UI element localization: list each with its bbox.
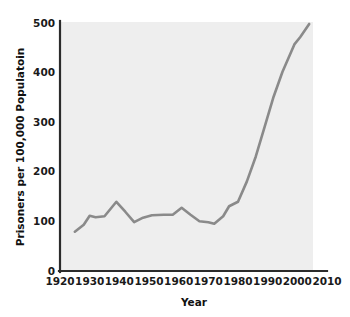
x-tick-label: 2000: [283, 275, 312, 287]
x-tick-label: 1960: [164, 275, 193, 287]
x-tick-label: 1980: [223, 275, 252, 287]
y-axis-title: Prisoners per 100,000 Populatoin: [14, 48, 26, 246]
y-tick-labels: 500 400 300 200 100 0: [33, 17, 55, 277]
x-tick-label: 1970: [194, 275, 223, 287]
y-tick-label: 100: [33, 215, 55, 227]
x-tick-label: 1930: [75, 275, 104, 287]
x-tick-label: 1950: [134, 275, 163, 287]
x-tick-label: 2010: [312, 275, 341, 287]
x-tick-labels: 1920 1930 1940 1950 1960 1970 1980 1990 …: [45, 275, 341, 287]
plot-area-background: [60, 22, 313, 271]
x-tick-label: 1990: [253, 275, 282, 287]
x-tick-label: 1940: [105, 275, 134, 287]
x-axis-title: Year: [180, 296, 208, 308]
y-tick-label: 300: [33, 116, 55, 128]
chart-figure: 500 400 300 200 100 0 1920 1930 1940 195…: [0, 0, 350, 317]
y-tick-label: 400: [33, 66, 55, 78]
chart-svg: 500 400 300 200 100 0 1920 1930 1940 195…: [0, 0, 350, 317]
x-tick-label: 1920: [45, 275, 74, 287]
y-tick-label: 200: [33, 165, 55, 177]
y-tick-label: 500: [33, 17, 55, 29]
